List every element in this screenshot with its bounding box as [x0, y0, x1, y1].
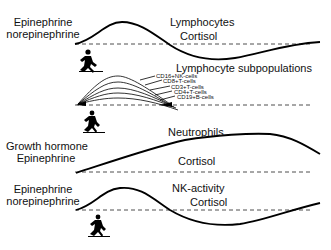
hormone-label: Epinephrine norepinephrine	[6, 183, 80, 207]
label-line: Growth hormone	[6, 140, 86, 152]
neutrophil-curve	[76, 134, 320, 173]
baseline-label: Cortisol	[190, 196, 227, 208]
label-line: Epinephrine	[6, 152, 86, 164]
subset-label: CD19+B-cells	[177, 94, 214, 100]
curve-label: Lymphocytes	[170, 16, 234, 28]
curve-label: Neutrophils	[168, 126, 224, 138]
baseline-label: Cortisol	[178, 155, 215, 167]
runner-icon	[88, 215, 110, 237]
runner-icon	[79, 49, 103, 73]
baseline-label: Cortisol	[180, 30, 217, 42]
hormone-label: Growth hormone Epinephrine	[6, 140, 86, 164]
runner-icon	[83, 111, 105, 133]
label-line: Epinephrine	[6, 16, 80, 28]
curve-label: NK-activity	[172, 182, 225, 194]
label-line: norepinephrine	[6, 195, 80, 207]
label-line: Epinephrine	[6, 183, 80, 195]
label-line: norepinephrine	[6, 28, 80, 40]
hormone-label: Epinephrine norepinephrine	[6, 16, 80, 40]
exercise-immune-diagram: Epinephrine norepinephrine Lymphocytes C…	[0, 0, 331, 250]
